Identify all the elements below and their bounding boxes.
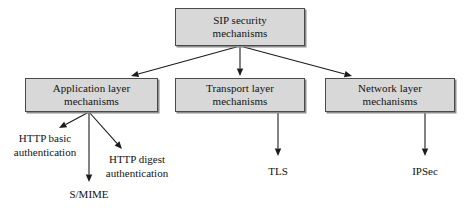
node-sip-security-mechanisms: SIP security mechanisms [175,8,305,46]
node-line: mechanisms [213,95,268,109]
node-transport-layer-mechanisms: Transport layer mechanisms [175,78,305,112]
label-http-digest-authentication: HTTP digest authentication [106,152,168,180]
arrowhead-icon [59,122,67,128]
label-tls: TLS [268,164,288,178]
connector-line [66,112,89,124]
label-ipsec: IPSec [412,164,438,178]
arrowhead-icon [422,149,428,157]
sip-security-mechanisms-diagram: SIP security mechanisms Application laye… [0,0,469,208]
edge-application-to-http-digest [89,112,122,149]
connector-line [89,112,117,143]
leaf-line: IPSec [412,164,438,178]
edge-application-to-http-basic [59,112,89,128]
label-http-basic-authentication: HTTP basic authentication [14,131,76,159]
node-line: Transport layer [206,82,274,96]
leaf-line: S/MIME [69,187,108,201]
leaf-line: TLS [268,164,288,178]
edge-sip-to-transport [237,46,243,76]
arrowhead-icon [131,71,139,77]
arrowhead-icon [344,71,352,77]
edge-sip-to-network [240,46,352,77]
arrowhead-icon [115,141,122,149]
edge-application-to-s-mime [86,112,92,182]
leaf-line: HTTP basic [14,131,76,145]
arrowhead-icon [237,69,243,77]
edge-sip-to-application [131,46,240,77]
leaf-line: HTTP digest [106,152,168,166]
node-line: mechanisms [64,95,119,109]
edge-transport-to-tls [275,112,281,156]
node-line: Application layer [53,82,131,96]
arrowhead-icon [86,175,92,183]
node-line: mechanisms [363,95,418,109]
leaf-line: authentication [106,166,168,180]
node-application-layer-mechanisms: Application layer mechanisms [25,78,158,112]
node-line: Network layer [358,82,422,96]
leaf-line: authentication [14,145,76,159]
arrowhead-icon [275,149,281,157]
node-line: mechanisms [213,27,268,41]
edge-network-to-ipsec [422,112,428,156]
label-s-mime: S/MIME [69,187,108,201]
connector-line [138,46,240,74]
node-line: SIP security [213,14,267,28]
node-network-layer-mechanisms: Network layer mechanisms [325,78,455,112]
connector-line [240,46,345,74]
